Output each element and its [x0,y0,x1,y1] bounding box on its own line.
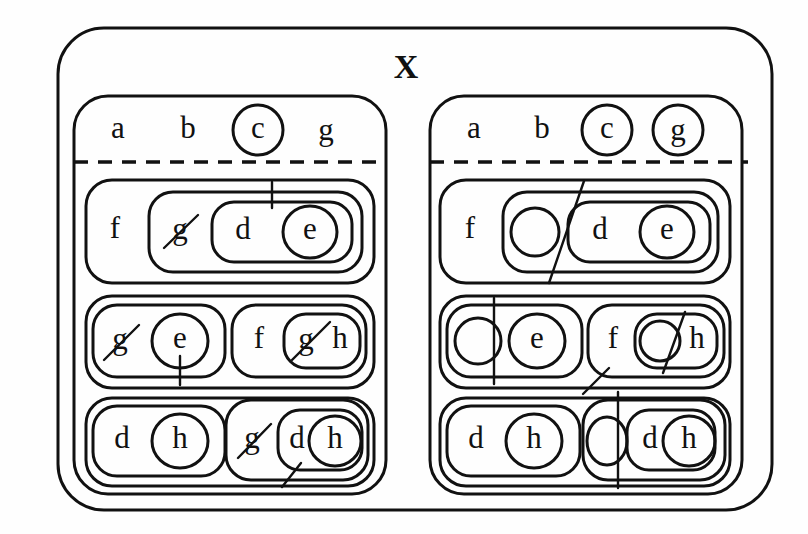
left-row3-group1-box [93,406,225,476]
right-row2-label-e: e [530,320,544,355]
right-row1-long-diagonal-slash [549,181,584,283]
left-row2-outer-box [86,296,374,388]
right-row1-empty-circle [511,208,559,256]
left-row1-label-d: d [235,211,251,246]
left-row2-group2-inner-box [284,314,360,368]
universe-box-x [58,28,772,510]
right-row1-label-f: f [465,210,476,245]
left-row2-label-e: e [173,320,187,355]
right-header-a: a [467,110,481,145]
left-header-b: b [180,110,196,145]
left-row3-label-h: h [172,420,188,455]
right-row3-label-d: d [468,420,484,455]
euler-diagram-svg: X a b c g f g d e g [0,0,808,534]
right-row3-label-h: h [526,420,542,455]
right-row1-outer-box [440,180,730,283]
right-row3-group2-label-d: d [642,420,658,455]
right-row3-group2-label-h: h [681,420,697,455]
left-header-g: g [318,112,334,147]
right-row3-empty-circle [587,417,627,465]
right-row1-label-e: e [660,211,674,246]
right-header-g: g [670,112,686,147]
right-row2-outer-box [440,296,730,388]
left-row3-group2-label-h: h [327,420,343,455]
right-row2-group2-label-h: h [689,320,705,355]
left-row-3: d h g d h [86,398,374,487]
universe-label-x: X [394,48,419,85]
left-row1-label-f: f [110,210,121,245]
right-row1-label-d: d [592,211,608,246]
left-row2-label-f: f [254,320,265,355]
left-row-2: g e f g h [86,296,374,388]
right-row2-label-f: f [608,320,619,355]
right-row1-inner-box [503,192,718,272]
left-row3-diagonal-tick [282,463,301,487]
right-header-b: b [534,110,550,145]
diagram-canvas: X a b c g f g d e g [0,0,808,534]
right-header-c: c [600,110,614,145]
right-row-3: d h d h [440,392,730,488]
left-row-1: f g d e [86,180,374,283]
left-row1-outer-box [86,180,374,283]
right-panel: a b c g f d e e f [430,96,748,494]
left-header-a: a [111,110,125,145]
left-row3-label-d: d [114,420,130,455]
right-row-1: f d e [440,180,730,283]
right-row-2: e f h [440,296,730,394]
left-header-c: c [251,110,265,145]
left-row2-group2-label-h: h [332,320,348,355]
left-row3-group2-label-d: d [289,420,305,455]
right-row3-group1-box [447,406,580,476]
right-row2-group1-box [447,305,582,377]
left-panel: a b c g f g d e g e f [74,96,386,494]
left-row1-label-e: e [303,211,317,246]
